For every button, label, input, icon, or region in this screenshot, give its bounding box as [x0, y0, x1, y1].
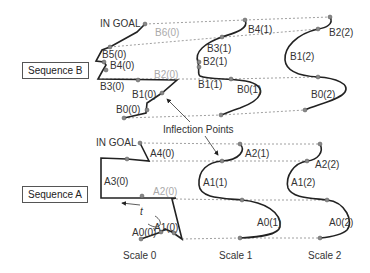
- label-b1-1: B1(1): [198, 79, 222, 90]
- label-a1-1: A1(1): [203, 177, 227, 188]
- time-label: t: [140, 206, 144, 217]
- label-a1-2: A1(2): [291, 177, 315, 188]
- label-a0-0: A0(0): [132, 227, 156, 238]
- scale-1-label: Scale 1: [219, 250, 253, 261]
- label-a2-2: A2(2): [315, 159, 339, 170]
- label-b0-1: B0(1): [237, 84, 261, 95]
- time-arrow-head: [122, 203, 140, 205]
- label-b3-1: B3(1): [207, 43, 231, 54]
- label-b0-2: B0(2): [311, 89, 335, 100]
- label-a2-0: A2(0): [153, 186, 177, 197]
- label-a2-1: A2(1): [245, 148, 269, 159]
- label-b4-0: B4(0): [110, 60, 134, 71]
- label-b1-2: B1(2): [290, 51, 314, 62]
- scale-0-label: Scale 0: [123, 250, 157, 261]
- inflection-points-label: Inflection Points: [163, 124, 234, 135]
- label-b4-1: B4(1): [248, 24, 272, 35]
- label-a3-0: A3(0): [104, 176, 128, 187]
- label-b2-1: B2(1): [203, 56, 227, 67]
- scale-2-label: Scale 2: [308, 250, 342, 261]
- label-a0-2: A0(2): [329, 217, 353, 228]
- label-b2-0: B2(0): [154, 69, 178, 80]
- label-b3-0: B3(0): [100, 81, 124, 92]
- label-b6-0: B6(0): [155, 27, 179, 38]
- label-b2-2: B2(2): [329, 27, 353, 38]
- inflection-points-arrow: [167, 99, 190, 122]
- label-b5-0: B5(0): [102, 49, 126, 60]
- sequence-a-goal-label: IN GOAL: [96, 137, 137, 148]
- label-b1-0: B1(0): [132, 89, 156, 100]
- sequence-b-goal-label: IN GOAL: [100, 18, 141, 29]
- label-b0-0: B0(0): [116, 104, 140, 115]
- label-a4-0: A4(0): [150, 148, 174, 159]
- inflection-points-arrow-2: [205, 136, 218, 155]
- multiscale-diagram: IN GOAL B6(0) B5(0) B4(0) B3(0) B2(0) B1…: [0, 0, 370, 273]
- sequence-b-scale1-points: [197, 18, 247, 117]
- sequence-a-scale1-points: [220, 142, 244, 240]
- label-a0-1: A0(1): [257, 217, 281, 228]
- label-a1-0: A1(0): [154, 222, 178, 233]
